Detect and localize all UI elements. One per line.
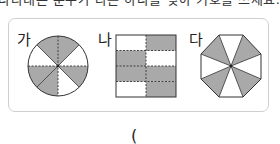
answer-open-paren: ( [131,126,137,144]
figures-drawing [0,0,280,144]
figure-na-square [116,35,176,97]
figure-da-octagon [201,35,261,97]
figure-ga-circle [28,36,88,96]
